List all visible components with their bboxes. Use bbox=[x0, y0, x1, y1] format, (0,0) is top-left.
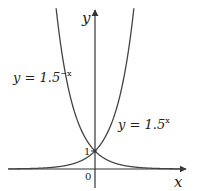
right-curve-label: y = 1.5x bbox=[117, 116, 170, 132]
exponential-graph: y x 1 0 y = 1.5−x y = 1.5x bbox=[0, 0, 202, 191]
tick-label-one: 1 bbox=[84, 146, 90, 157]
left-curve-label-base: y = 1.5 bbox=[12, 70, 60, 85]
y-axis-label: y bbox=[81, 9, 91, 27]
right-curve-label-exp: x bbox=[165, 116, 170, 125]
right-curve-label-base: y = 1.5 bbox=[117, 117, 165, 132]
curve-1.5-pow-x bbox=[8, 8, 134, 169]
x-axis-label: x bbox=[174, 173, 183, 191]
left-curve-label-exp: −x bbox=[60, 69, 72, 78]
left-curve-label: y = 1.5−x bbox=[12, 69, 72, 85]
curve-1.5-pow-neg-x bbox=[56, 8, 185, 169]
origin-label: 0 bbox=[85, 171, 91, 182]
